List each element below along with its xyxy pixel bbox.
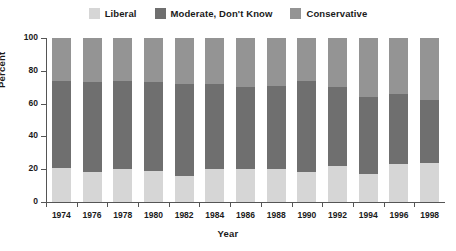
stacked-bar[interactable] <box>205 38 224 202</box>
bar-segment[interactable] <box>52 81 71 168</box>
bar-segment[interactable] <box>359 38 378 97</box>
y-tick: 80 <box>41 71 46 72</box>
y-tick-label: 40 <box>29 130 38 140</box>
bar-segment[interactable] <box>175 84 194 176</box>
x-tick <box>230 202 231 207</box>
x-tick-label: 1984 <box>205 210 224 220</box>
bar-segment[interactable] <box>144 38 163 82</box>
x-tick <box>169 202 170 207</box>
stacked-bar[interactable] <box>52 38 71 202</box>
x-tick <box>322 202 323 207</box>
bar-segment[interactable] <box>267 86 286 170</box>
stacked-bar[interactable] <box>113 38 132 202</box>
x-tick-label: 1978 <box>113 210 132 220</box>
x-tick-label: 1986 <box>236 210 255 220</box>
stacked-bar[interactable] <box>328 38 347 202</box>
x-axis-line <box>46 202 445 203</box>
legend-label: Conservative <box>306 8 367 19</box>
bar-segment[interactable] <box>328 38 347 87</box>
x-tick <box>414 202 415 207</box>
x-tick-label: 1974 <box>52 210 71 220</box>
x-tick <box>107 202 108 207</box>
bar-segment[interactable] <box>236 169 255 202</box>
x-tick <box>384 202 385 207</box>
bar-segment[interactable] <box>267 169 286 202</box>
bar-segment[interactable] <box>328 166 347 202</box>
bar-segment[interactable] <box>144 82 163 171</box>
bar-segment[interactable] <box>144 171 163 202</box>
x-tick-label: 1980 <box>144 210 163 220</box>
bar-segment[interactable] <box>359 174 378 202</box>
stacked-bar[interactable] <box>420 38 439 202</box>
legend-swatch-icon <box>89 8 100 19</box>
y-tick-label: 80 <box>29 65 38 75</box>
bar-segment[interactable] <box>113 38 132 81</box>
legend-item[interactable]: Conservative <box>290 8 367 19</box>
bar-segment[interactable] <box>420 163 439 202</box>
bar-segment[interactable] <box>267 38 286 86</box>
stacked-bar[interactable] <box>359 38 378 202</box>
stacked-bar[interactable] <box>267 38 286 202</box>
legend-swatch-icon <box>290 8 301 19</box>
legend-item[interactable]: Moderate, Don't Know <box>155 8 273 19</box>
bar-segment[interactable] <box>389 38 408 94</box>
legend-item[interactable]: Liberal <box>89 8 137 19</box>
legend-label: Liberal <box>105 8 137 19</box>
stacked-bar[interactable] <box>297 38 316 202</box>
x-tick-label: 1994 <box>359 210 378 220</box>
bar-segment[interactable] <box>83 82 102 172</box>
y-tick: 60 <box>41 104 46 105</box>
bar-segment[interactable] <box>205 38 224 84</box>
stacked-bar[interactable] <box>175 38 194 202</box>
x-tick <box>138 202 139 207</box>
bar-segment[interactable] <box>297 38 316 81</box>
bar-segment[interactable] <box>205 84 224 169</box>
x-tick <box>46 202 47 207</box>
x-tick <box>353 202 354 207</box>
y-tick-label: 20 <box>29 163 38 173</box>
x-tick-label: 1992 <box>328 210 347 220</box>
bar-segment[interactable] <box>205 169 224 202</box>
y-axis-title: Percent <box>0 52 7 88</box>
plot-area: 020406080100 197419761978198019821984198… <box>46 38 445 202</box>
bar-segment[interactable] <box>236 38 255 87</box>
x-axis-title: Year <box>0 228 456 239</box>
x-tick-label: 1998 <box>420 210 439 220</box>
x-tick <box>292 202 293 207</box>
bar-segment[interactable] <box>420 38 439 100</box>
y-tick: 40 <box>41 136 46 137</box>
x-tick-label: 1990 <box>297 210 316 220</box>
x-tick-label: 1996 <box>389 210 408 220</box>
bar-segment[interactable] <box>420 100 439 162</box>
bar-segment[interactable] <box>236 87 255 169</box>
stacked-bar[interactable] <box>144 38 163 202</box>
bar-segment[interactable] <box>389 164 408 202</box>
x-tick <box>261 202 262 207</box>
y-tick-label: 100 <box>24 32 38 42</box>
x-tick-label: 1976 <box>83 210 102 220</box>
x-tick-label: 1988 <box>267 210 286 220</box>
bar-segment[interactable] <box>328 87 347 166</box>
x-tick <box>199 202 200 207</box>
stacked-bar[interactable] <box>389 38 408 202</box>
bar-segment[interactable] <box>52 38 71 81</box>
bar-segment[interactable] <box>175 176 194 202</box>
chart-legend: LiberalModerate, Don't KnowConservative <box>0 8 456 19</box>
bar-segment[interactable] <box>52 168 71 202</box>
bar-segment[interactable] <box>83 172 102 202</box>
bar-segment[interactable] <box>113 169 132 202</box>
bar-segment[interactable] <box>83 38 102 82</box>
bar-segment[interactable] <box>359 97 378 174</box>
y-tick-label: 60 <box>29 98 38 108</box>
legend-label: Moderate, Don't Know <box>171 8 273 19</box>
y-tick: 100 <box>41 38 46 39</box>
bar-segment[interactable] <box>175 38 194 84</box>
bar-segment[interactable] <box>113 81 132 170</box>
stacked-bar[interactable] <box>236 38 255 202</box>
y-axis-line <box>46 38 47 203</box>
bar-segment[interactable] <box>389 94 408 165</box>
bar-segment[interactable] <box>297 81 316 173</box>
x-tick <box>77 202 78 207</box>
stacked-bar[interactable] <box>83 38 102 202</box>
bar-segment[interactable] <box>297 172 316 202</box>
